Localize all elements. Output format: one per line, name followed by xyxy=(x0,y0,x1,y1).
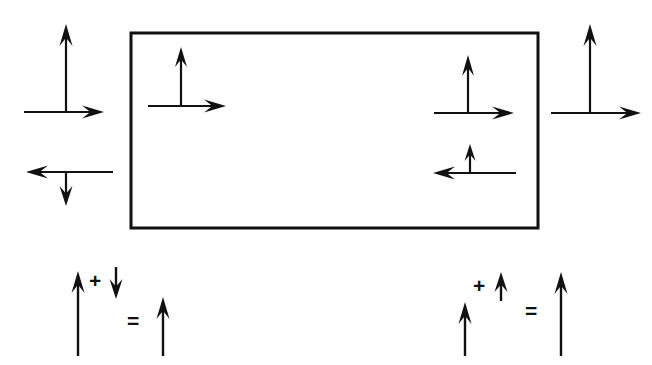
equals-sign: = xyxy=(525,300,537,321)
plus-sign: + xyxy=(473,275,485,296)
force-diagram-figure: +=+= xyxy=(0,0,652,365)
vector-diagram-canvas xyxy=(0,0,652,365)
canvas-background xyxy=(0,0,652,365)
plus-sign: + xyxy=(89,270,101,291)
equals-sign: = xyxy=(127,310,139,331)
